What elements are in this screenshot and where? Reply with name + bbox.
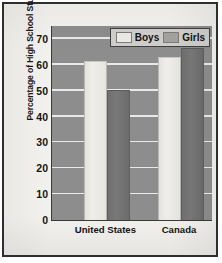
- legend-entry-girls: Girls: [163, 32, 205, 43]
- bar-boys-canada: [158, 57, 181, 220]
- y-axis-tick-label: 30: [26, 136, 48, 148]
- y-axis-tick-label: 20: [26, 162, 48, 174]
- figure-frame: Percentage of High School Students 01020…: [2, 2, 218, 257]
- plot-area: BoysGirls: [51, 26, 212, 221]
- y-axis-tick-label: 60: [26, 59, 48, 71]
- boys-swatch-icon: [116, 32, 132, 43]
- x-axis-tick-label: Canada: [162, 224, 197, 235]
- y-axis-tick-label: 70: [26, 33, 48, 45]
- legend-label: Girls: [182, 32, 205, 43]
- girls-swatch-icon: [163, 32, 179, 43]
- y-axis-tick-labels: 010203040506070: [26, 28, 48, 220]
- y-axis-tick-label: 10: [26, 188, 48, 200]
- x-axis-tick-labels: United StatesCanada: [51, 224, 211, 240]
- legend-label: Boys: [135, 32, 159, 43]
- bar-boys-united-states: [84, 61, 107, 220]
- bar-girls-united-states: [107, 90, 130, 220]
- legend: BoysGirls: [110, 28, 210, 47]
- x-axis-tick-label: United States: [75, 224, 136, 235]
- legend-entry-boys: Boys: [116, 32, 159, 43]
- y-axis-tick-label: 40: [26, 111, 48, 123]
- y-axis-tick-label: 0: [26, 214, 48, 226]
- y-axis-tick-label: 50: [26, 85, 48, 97]
- bar-girls-canada: [181, 48, 204, 220]
- figure-canvas: Percentage of High School Students 01020…: [4, 4, 216, 255]
